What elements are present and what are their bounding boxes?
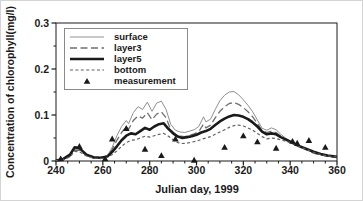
legend-label: layer3 [114,43,141,53]
surface-line-sample [69,32,105,42]
x-tick-label: 360 [328,164,346,176]
legend-item-layer5: layer5 [69,53,187,64]
layer5-curve [56,115,337,161]
legend-item-surface: surface [69,31,187,42]
x-tick-label: 340 [281,164,299,176]
x-tick-label: 300 [188,164,206,176]
measurement-point [191,157,198,163]
legend-label: surface [114,32,148,42]
x-tick-label: 260 [94,164,112,176]
surface-curve [56,92,337,161]
layer5-line-sample [69,54,105,64]
y-tick-label: 0.3 [34,17,49,29]
x-tick-label: 240 [47,164,65,176]
measurement-point [76,143,83,149]
legend-item-measurement: measurement [69,76,187,87]
measurement-point [142,146,149,152]
y-tick-label: 0 [43,155,49,167]
layer3-curve [56,103,337,161]
legend-label: layer5 [114,54,141,64]
legend-label: bottom [114,65,146,75]
y-axis-title: Concentration of chlorophyll(mg/l) [4,6,16,178]
layer3-line-sample [69,43,105,53]
x-tick-label: 280 [141,164,159,176]
x-axis-title: Julian day, 1999 [155,183,239,195]
measurement-point [221,144,228,150]
triangle-marker-icon [69,76,105,86]
measurement-point [158,152,165,158]
measurement-point [322,144,329,150]
y-tick-label: 0.1 [34,109,49,121]
measurement-point [273,145,280,151]
bottom-line-sample [69,65,105,75]
measurement-point [254,138,261,144]
legend-item-layer3: layer3 [69,42,187,53]
measurement-point [306,137,313,143]
measurement-point [240,132,247,138]
chlorophyll-concentration-chart: 24026028030032034036000.10.20.3 Concentr… [0,0,363,201]
legend-label: measurement [114,76,176,86]
y-tick-label: 0.2 [34,63,49,75]
x-tick-label: 320 [235,164,253,176]
measurement-point [109,136,116,142]
legend: surface layer3 layer5 bottom measurement [64,28,188,90]
legend-item-bottom: bottom [69,65,187,76]
